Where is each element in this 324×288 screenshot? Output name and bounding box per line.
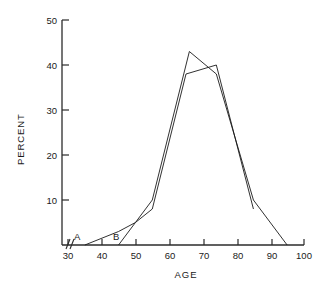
x-tick-label-90: 90 [267, 250, 278, 261]
x-tick-label-70: 70 [199, 250, 210, 261]
y-tick-label-10: 10 [46, 195, 57, 206]
axis-break-mark [66, 239, 74, 249]
y-tick-label-40: 40 [46, 60, 57, 71]
x-tick-label-80: 80 [233, 250, 244, 261]
x-axis-group: 30 40 50 60 70 80 90 100 AGE [62, 239, 312, 280]
x-tick-label-50: 50 [131, 250, 142, 261]
y-tick-label-20: 20 [46, 150, 57, 161]
y-tick-label-30: 30 [46, 105, 57, 116]
chart-container: 50 40 30 20 10 PERCENT 30 [0, 0, 324, 288]
series-line-a [85, 52, 287, 246]
y-axis-title: PERCENT [15, 113, 26, 165]
x-axis-title: AGE [175, 269, 198, 280]
x-tick-label-40: 40 [97, 250, 108, 261]
y-axis-group: 50 40 30 20 10 PERCENT [15, 15, 69, 245]
x-tick-marks [68, 239, 304, 245]
x-tick-label-100: 100 [296, 250, 312, 261]
y-tick-label-50: 50 [46, 15, 57, 26]
series-b-label: B [113, 231, 119, 242]
data-series-group [85, 52, 287, 246]
line-chart: 50 40 30 20 10 PERCENT 30 [0, 0, 324, 288]
x-tick-label-60: 60 [165, 250, 176, 261]
y-tick-marks [62, 20, 69, 200]
x-tick-label-30: 30 [63, 250, 74, 261]
series-a-label: A [74, 231, 81, 242]
